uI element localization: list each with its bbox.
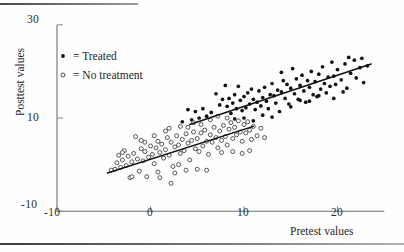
data-point: [135, 157, 139, 161]
data-point: [220, 150, 224, 154]
data-point: [354, 76, 358, 80]
data-point: [229, 121, 233, 125]
data-point: [143, 150, 147, 154]
data-point: [175, 134, 179, 138]
data-point: [209, 111, 213, 115]
data-point: [317, 72, 321, 76]
open-circle-icon: [56, 71, 70, 79]
legend-item-treated: = Treated: [56, 46, 143, 65]
data-point: [225, 116, 229, 120]
data-point: [330, 60, 334, 64]
data-point: [293, 92, 297, 96]
data-point: [117, 153, 121, 157]
data-point: [197, 116, 201, 120]
data-point: [240, 109, 244, 113]
data-point: [158, 176, 162, 180]
data-point: [216, 146, 220, 150]
data-point: [139, 138, 143, 142]
data-point: [309, 70, 313, 74]
data-point: [259, 104, 263, 108]
data-point: [220, 138, 224, 142]
data-point: [130, 160, 134, 164]
data-point: [237, 84, 241, 88]
data-point: [334, 83, 338, 87]
data-point: [268, 93, 272, 97]
data-point: [233, 117, 237, 121]
data-point: [261, 113, 265, 117]
data-point: [242, 116, 246, 120]
data-point: [184, 132, 188, 136]
data-point: [347, 56, 351, 60]
ytick-label-10: 10: [27, 111, 39, 123]
data-point: [266, 107, 270, 111]
data-point: [276, 88, 280, 92]
data-point: [227, 97, 231, 101]
data-point: [233, 125, 237, 129]
data-point: [240, 151, 244, 155]
data-point: [178, 151, 182, 155]
data-point: [289, 86, 293, 90]
data-point: [218, 129, 222, 133]
xtick-label-20: 20: [331, 206, 343, 218]
data-point: [270, 82, 274, 86]
data-point: [295, 77, 299, 81]
data-point: [345, 86, 349, 90]
data-point: [139, 147, 143, 151]
data-point: [186, 141, 190, 145]
data-point: [242, 123, 246, 127]
data-point: [154, 146, 158, 150]
data-point: [360, 57, 364, 61]
data-point: [160, 142, 164, 146]
data-point: [145, 175, 149, 179]
data-point: [115, 161, 119, 165]
data-point: [240, 139, 244, 143]
data-point: [186, 108, 190, 112]
series-treated: [180, 56, 369, 124]
data-point: [152, 134, 156, 138]
data-point: [339, 78, 343, 82]
ytick-label-minus-10: -10: [21, 198, 37, 210]
data-point: [259, 126, 263, 130]
data-point: [165, 136, 169, 140]
data-point: [188, 158, 192, 162]
y-axis-title: Posttest values: [14, 48, 26, 116]
data-point: [246, 120, 250, 124]
data-point: [248, 149, 252, 153]
data-point: [311, 93, 315, 97]
x-axis-title: Pretest values: [290, 225, 354, 237]
data-point: [332, 97, 336, 101]
data-point: [193, 147, 197, 151]
data-point: [280, 70, 284, 74]
ytick-label-30: 30: [27, 13, 39, 25]
data-point: [300, 73, 304, 77]
data-point: [283, 97, 287, 101]
data-point: [130, 175, 134, 179]
data-point: [328, 84, 332, 88]
data-point: [180, 137, 184, 141]
data-point: [225, 143, 229, 147]
data-point: [306, 79, 310, 83]
data-point: [255, 134, 259, 138]
data-point: [150, 152, 154, 156]
data-point: [203, 128, 207, 132]
data-point: [235, 133, 239, 137]
data-point: [253, 108, 257, 112]
data-point: [285, 83, 289, 87]
data-point: [206, 152, 210, 156]
data-point: [218, 103, 222, 107]
data-point: [223, 84, 227, 88]
data-point: [236, 119, 240, 123]
series-no-treatment: [109, 114, 266, 185]
data-point: [194, 110, 198, 114]
data-point: [178, 124, 182, 128]
data-point: [201, 144, 205, 148]
data-point: [156, 139, 160, 143]
data-point: [163, 129, 167, 133]
data-point: [250, 87, 254, 91]
data-point: [163, 148, 167, 152]
data-point: [186, 125, 190, 129]
data-point: [167, 126, 171, 130]
data-point: [177, 143, 181, 147]
data-point: [158, 150, 162, 154]
data-point: [229, 111, 233, 115]
